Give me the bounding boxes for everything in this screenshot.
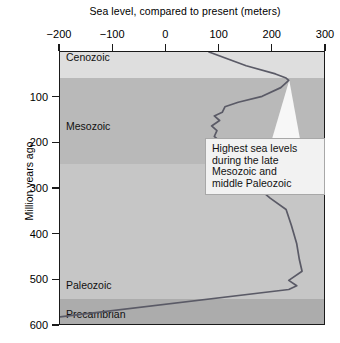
x-tick	[112, 44, 113, 51]
y-tick	[52, 187, 59, 188]
annotation-callout: Highest sea levels during the late Mesoz…	[205, 138, 325, 195]
x-tick	[165, 44, 166, 51]
y-tick-label: 400	[18, 228, 48, 240]
y-tick-label: 200	[18, 136, 48, 148]
x-tick	[271, 44, 272, 51]
x-tick-label: −100	[100, 28, 125, 40]
x-tick-label: 200	[263, 28, 281, 40]
y-tick-label: 300	[18, 182, 48, 194]
x-tick	[218, 44, 219, 51]
y-tick	[52, 142, 59, 143]
x-tick-label: −200	[47, 28, 72, 40]
y-tick	[52, 324, 59, 325]
x-tick	[58, 44, 59, 51]
y-tick-label: 500	[18, 273, 48, 285]
y-tick	[52, 279, 59, 280]
y-axis-title: Million years ago	[23, 91, 35, 271]
x-tick-label: 0	[162, 28, 168, 40]
y-tick-label: 100	[18, 91, 48, 103]
y-tick-label: 600	[18, 319, 48, 331]
y-tick	[52, 96, 59, 97]
x-tick-label: 100	[209, 28, 227, 40]
y-tick	[52, 233, 59, 234]
callout-line-4: middle Paleozoic	[212, 178, 319, 190]
x-tick-label: 300	[316, 28, 334, 40]
callout-line-1: Highest sea levels	[212, 143, 319, 155]
x-axis-title: Sea level, compared to present (meters)	[40, 5, 330, 17]
x-tick	[324, 44, 325, 51]
sea-level-chart: Sea level, compared to present (meters) …	[0, 0, 340, 343]
